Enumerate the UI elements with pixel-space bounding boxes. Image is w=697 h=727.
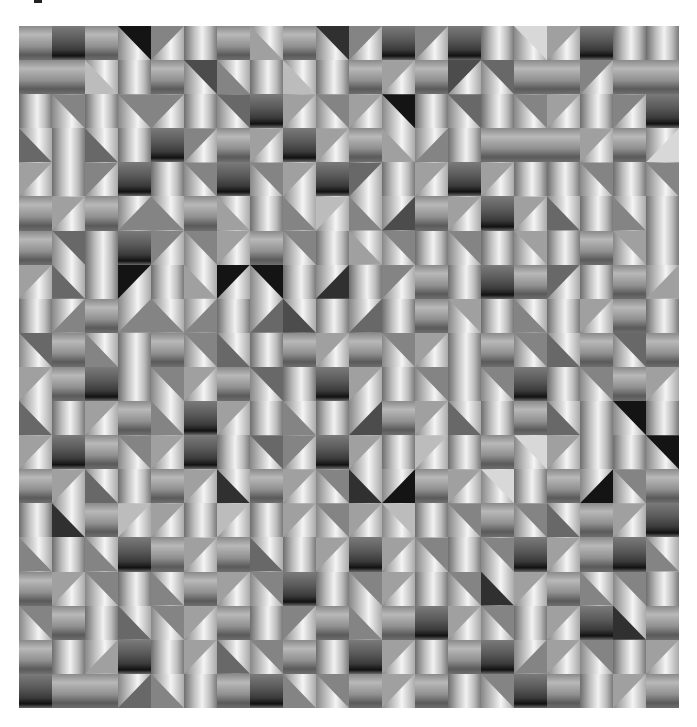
tile-flat-triangle — [118, 94, 151, 128]
tile-flat-triangle — [19, 162, 52, 196]
mosaic-tile — [448, 469, 481, 503]
mosaic-tile — [52, 231, 85, 265]
mosaic-tile — [382, 60, 415, 94]
tile-flat-triangle — [547, 196, 580, 230]
tile-flat-triangle — [448, 299, 481, 333]
tile-flat-triangle — [415, 435, 448, 469]
tile-flat-triangle — [118, 196, 151, 230]
mosaic-tile — [19, 674, 52, 708]
tile-flat-triangle — [19, 401, 52, 435]
mosaic-tile — [580, 674, 613, 708]
mosaic-tile — [316, 435, 349, 469]
mosaic-tile — [481, 606, 514, 640]
tile-flat-triangle — [184, 231, 217, 265]
tile-flat-triangle — [316, 469, 349, 503]
mosaic-tile — [448, 640, 481, 674]
tile-flat-triangle — [646, 537, 679, 571]
mosaic-tile — [481, 537, 514, 571]
mosaic-tile — [217, 572, 250, 606]
mosaic-tile — [415, 401, 448, 435]
mosaic-tile — [151, 231, 184, 265]
tile-flat-triangle — [580, 128, 613, 162]
tile-flat-triangle — [283, 401, 316, 435]
mosaic-tile — [52, 674, 85, 708]
mosaic-tile — [481, 503, 514, 537]
mosaic-tile — [415, 640, 448, 674]
tile-flat-triangle — [250, 640, 283, 674]
mosaic-tile — [118, 674, 151, 708]
mosaic-tile — [151, 94, 184, 128]
mosaic-tile — [415, 26, 448, 60]
mosaic-tile — [316, 128, 349, 162]
mosaic-tile — [52, 401, 85, 435]
tile-flat-triangle — [184, 469, 217, 503]
mosaic-tile — [646, 503, 679, 537]
mosaic-tile — [52, 265, 85, 299]
mosaic-tile — [514, 196, 547, 230]
mosaic-tile — [415, 94, 448, 128]
tile-flat-triangle — [52, 196, 85, 230]
mosaic-tile — [316, 537, 349, 571]
tile-flat-triangle — [613, 94, 646, 128]
mosaic-tile — [481, 26, 514, 60]
mosaic-tile — [481, 196, 514, 230]
tile-flat-triangle — [349, 196, 382, 230]
mosaic-tile — [151, 503, 184, 537]
mosaic-tile — [514, 94, 547, 128]
mosaic-tile — [481, 333, 514, 367]
mosaic-tile — [481, 572, 514, 606]
mosaic-tile — [547, 60, 580, 94]
mosaic-tile — [85, 503, 118, 537]
tile-flat-triangle — [250, 128, 283, 162]
mosaic-tile — [184, 401, 217, 435]
tile-flat-triangle — [151, 94, 184, 128]
tile-flat-triangle — [316, 537, 349, 571]
mosaic-tile — [580, 640, 613, 674]
tile-flat-triangle — [217, 503, 250, 537]
mosaic-tile — [448, 503, 481, 537]
tile-flat-triangle — [382, 469, 415, 503]
mosaic-tile — [316, 26, 349, 60]
tile-flat-triangle — [283, 435, 316, 469]
mosaic-tile — [448, 128, 481, 162]
mosaic-tile — [580, 299, 613, 333]
mosaic-tile — [382, 162, 415, 196]
mosaic-tile — [613, 572, 646, 606]
tile-flat-triangle — [481, 367, 514, 401]
mosaic-tile — [151, 128, 184, 162]
mosaic-tile — [646, 162, 679, 196]
mosaic-tile — [184, 94, 217, 128]
mosaic-tile — [52, 640, 85, 674]
mosaic-tile — [415, 128, 448, 162]
tile-flat-triangle — [118, 265, 151, 299]
mosaic-tile — [481, 640, 514, 674]
mosaic-tile — [382, 299, 415, 333]
mosaic-tile — [151, 60, 184, 94]
tile-flat-triangle — [52, 265, 85, 299]
mosaic-tile — [547, 435, 580, 469]
mosaic-tile — [514, 606, 547, 640]
mosaic-tile — [250, 503, 283, 537]
tile-flat-triangle — [283, 60, 316, 94]
tile-flat-triangle — [19, 265, 52, 299]
tile-flat-triangle — [283, 231, 316, 265]
mosaic-tile — [250, 299, 283, 333]
tile-flat-triangle — [118, 435, 151, 469]
tile-flat-triangle — [481, 469, 514, 503]
tile-flat-triangle — [415, 367, 448, 401]
tile-flat-triangle — [481, 162, 514, 196]
mosaic-tile — [580, 401, 613, 435]
tile-flat-triangle — [481, 674, 514, 708]
mosaic-tile — [415, 162, 448, 196]
mosaic-tile — [646, 265, 679, 299]
mosaic-tile — [349, 26, 382, 60]
tile-flat-triangle — [349, 401, 382, 435]
mosaic-tile — [52, 196, 85, 230]
mosaic-tile — [382, 469, 415, 503]
mosaic-tile — [514, 333, 547, 367]
mosaic-tile — [580, 26, 613, 60]
tile-flat-triangle — [349, 367, 382, 401]
tile-flat-triangle — [349, 162, 382, 196]
tile-flat-triangle — [580, 60, 613, 94]
mosaic-tile — [283, 299, 316, 333]
